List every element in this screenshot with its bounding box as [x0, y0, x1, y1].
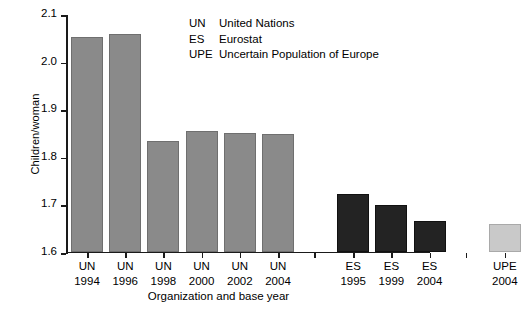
x-tick-mark	[505, 253, 507, 258]
x-tick-mark	[202, 253, 204, 258]
legend-item: UNUnited Nations	[189, 16, 379, 32]
x-tick-mark	[391, 253, 393, 258]
legend-abbr: ES	[189, 32, 219, 48]
y-tick-mark	[61, 15, 66, 17]
x-tick-mark	[240, 253, 242, 258]
x-axis-title: Organization and base year	[0, 290, 437, 302]
legend-abbr: UN	[189, 16, 219, 32]
x-tick-mark	[353, 253, 355, 258]
bar-un-1996	[109, 34, 141, 252]
bar-es-1995	[337, 194, 369, 252]
x-label-org: UN	[253, 259, 303, 274]
x-label-year: 2004	[405, 274, 455, 289]
y-tick-mark	[61, 63, 66, 65]
x-tick-mark	[87, 253, 89, 258]
x-tick-mark	[163, 253, 165, 258]
y-tick-mark	[61, 205, 66, 207]
x-tick-mark	[125, 253, 127, 258]
chart-legend: UNUnited NationsESEurostatUPEUncertain P…	[189, 16, 379, 63]
y-tick-mark	[61, 253, 66, 255]
bar-es-2004	[414, 221, 446, 252]
y-tick-label: 2.1	[41, 7, 57, 19]
bar-un-2004	[262, 134, 294, 252]
x-tick-mark	[278, 253, 280, 258]
x-tick-label: UN2004	[253, 259, 303, 288]
bar-un-2000	[186, 131, 218, 252]
y-tick-label: 1.9	[41, 102, 57, 114]
y-tick-mark	[61, 110, 66, 112]
bar-es-1999	[375, 205, 407, 252]
x-tick-label: ES2004	[405, 259, 455, 288]
y-tick-label: 1.6	[41, 245, 57, 257]
y-tick-mark	[61, 158, 66, 160]
legend-item: ESEurostat	[189, 32, 379, 48]
y-tick-label: 1.7	[41, 197, 57, 209]
bar-un-1998	[147, 141, 179, 252]
x-tick-label: UPE2004	[480, 259, 525, 288]
bar-un-1994	[71, 37, 103, 252]
legend-label: Uncertain Population of Europe	[219, 47, 379, 63]
x-label-year: 2004	[480, 274, 525, 289]
legend-label: Eurostat	[219, 32, 262, 48]
y-tick-label: 2.0	[41, 55, 57, 67]
legend-label: United Nations	[219, 16, 294, 32]
y-axis-line	[66, 15, 68, 254]
y-axis-title: Children/woman	[29, 54, 41, 214]
x-label-year: 2004	[253, 274, 303, 289]
x-tick-mark	[314, 253, 316, 258]
y-tick-label: 1.8	[41, 150, 57, 162]
x-tick-mark	[466, 253, 468, 258]
legend-item: UPEUncertain Population of Europe	[189, 47, 379, 63]
x-label-org: ES	[405, 259, 455, 274]
x-label-org: UPE	[480, 259, 525, 274]
bar-un-2002	[224, 133, 256, 252]
bar-upe-2004	[489, 224, 521, 252]
x-tick-mark	[430, 253, 432, 258]
legend-abbr: UPE	[189, 47, 219, 63]
